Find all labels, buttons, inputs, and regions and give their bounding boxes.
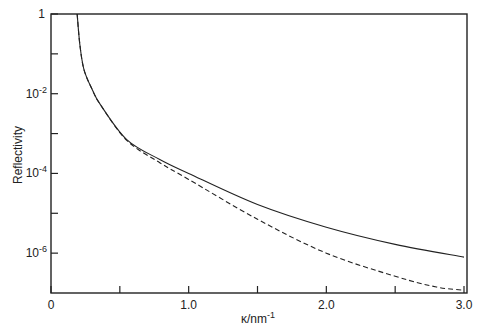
- plot-frame: [51, 14, 467, 293]
- x-tick-label: 3.0: [456, 298, 473, 312]
- solid-curve: [77, 14, 464, 257]
- x-tick-label: 1.0: [180, 298, 197, 312]
- y-axis-label: Reflectivity: [11, 126, 25, 184]
- x-tick-label: 0: [48, 298, 55, 312]
- x-axis-label: κ/nm-1: [241, 310, 275, 326]
- y-tick-label: 10-6: [26, 244, 47, 260]
- x-axis: 01.02.03.0: [48, 286, 473, 312]
- x-tick-label: 2.0: [318, 298, 335, 312]
- plot-area: [51, 14, 467, 293]
- reflectivity-chart: 01.02.03.0 110-210-410-6 Reflectivity κ/…: [0, 0, 482, 327]
- y-tick-label: 10-4: [26, 164, 47, 180]
- y-tick-label: 1: [38, 7, 45, 21]
- dashed-curve: [77, 14, 464, 290]
- y-axis: 110-210-410-6: [26, 7, 58, 260]
- y-tick-label: 10-2: [26, 85, 47, 101]
